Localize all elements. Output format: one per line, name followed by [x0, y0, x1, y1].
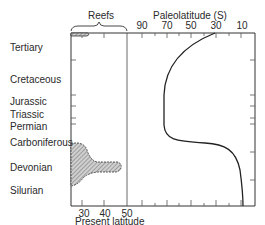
paleolatitude-curve	[164, 33, 243, 206]
right-tick-label: 30	[210, 20, 221, 31]
period-label-cretaceous: Cretaceous	[10, 74, 61, 85]
period-label-devonian: Devonian	[10, 162, 52, 173]
period-label-jurassic: Jurassic	[10, 96, 47, 107]
right-tick-label: 70	[161, 20, 172, 31]
period-label-tertiary: Tertiary	[10, 42, 43, 53]
right-tick-label: 10	[236, 20, 247, 31]
period-label-silurian: Silurian	[10, 185, 43, 196]
reef-area-paleozoic	[71, 143, 121, 186]
reefs-label: Reefs	[88, 10, 114, 21]
period-label-triassic: Triassic	[10, 109, 44, 120]
left-bottom-ticks	[82, 200, 104, 206]
right-top-ticks	[142, 33, 241, 38]
reef-area-tertiary	[71, 33, 89, 36]
right-period-ticks	[250, 60, 255, 180]
reefs-brace	[71, 22, 127, 31]
right-tick-label: 50	[185, 20, 196, 31]
period-label-permian: Permian	[10, 121, 47, 132]
period-label-carboniferous: Carboniferous	[10, 137, 73, 148]
present-latitude-label: Present latitude	[75, 216, 145, 225]
right-bottom-ticks	[142, 200, 241, 206]
right-tick-label: 90	[136, 20, 147, 31]
